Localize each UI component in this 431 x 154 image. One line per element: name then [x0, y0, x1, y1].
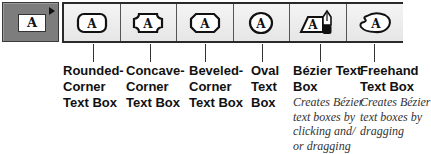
svg-text:A: A — [199, 17, 210, 31]
svg-text:A: A — [307, 18, 318, 32]
text-box-tool-selected[interactable]: A — [2, 2, 59, 42]
leader-line-oval — [262, 44, 263, 62]
label-bezier-text-box: Bézier Text Box — [293, 63, 361, 95]
bezier-text-box-button[interactable]: A — [290, 4, 347, 41]
description-freehand-text-box: Creates Bézier text boxes by dragging — [360, 95, 431, 139]
svg-text:A: A — [86, 17, 97, 31]
popout-triangle-icon — [49, 7, 55, 15]
beveled-corner-text-box-icon: A — [187, 10, 223, 36]
label-rounded-corner-text-box: Rounded- Corner Text Box — [63, 63, 124, 111]
svg-text:A: A — [370, 17, 381, 31]
svg-text:A: A — [256, 17, 267, 31]
label-concave-corner-text-box: Concave- Corner Text Box — [126, 63, 185, 111]
bezier-text-box-icon: A — [298, 8, 338, 38]
leader-line-rounded-corner — [93, 44, 94, 62]
oval-text-box-icon: A — [243, 10, 279, 36]
leader-line-concave-corner — [150, 44, 151, 62]
label-oval-text-box: Oval Text Box — [251, 63, 279, 111]
description-bezier-text-box: Creates Bézier text boxes by clicking an… — [293, 95, 364, 153]
leader-line-beveled-corner — [205, 44, 206, 62]
text-box-popout-toolbar: A A A A A A — [62, 2, 403, 43]
concave-corner-text-box-button[interactable]: A — [121, 4, 178, 41]
leader-line-bezier — [320, 44, 321, 62]
label-beveled-corner-text-box: Beveled- Corner Text Box — [189, 63, 243, 111]
freehand-text-box-button[interactable]: A — [347, 4, 404, 41]
freehand-text-box-icon: A — [355, 9, 395, 37]
text-box-icon: A — [18, 14, 46, 32]
rounded-corner-text-box-icon: A — [74, 10, 110, 36]
beveled-corner-text-box-button[interactable]: A — [177, 4, 234, 41]
leader-line-freehand — [374, 44, 375, 62]
rounded-corner-text-box-button[interactable]: A — [64, 4, 121, 41]
concave-corner-text-box-icon: A — [130, 10, 166, 36]
label-freehand-text-box: Freehand Text Box — [360, 63, 419, 95]
oval-text-box-button[interactable]: A — [234, 4, 291, 41]
svg-text:A: A — [143, 17, 154, 31]
